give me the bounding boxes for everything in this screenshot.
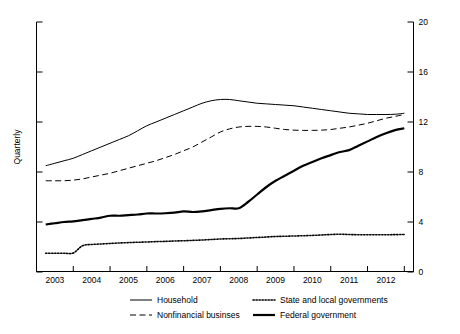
y-tick-label: 12 [419,117,429,127]
x-tick-label: 2004 [82,275,101,285]
chart-figure: 048121620 200320042005200620072008200920… [0,0,460,334]
x-tick-label: 2011 [340,275,359,285]
y-tick-label: 8 [419,167,424,177]
right-axis-tick-labels: 048121620 [419,17,429,277]
x-tick-label: 2009 [266,275,285,285]
x-tick-label: 2012 [376,275,395,285]
y-tick-label: 0 [419,267,424,277]
x-axis-tick-labels: 2003200420052006200720082009201020112012 [45,275,395,285]
x-tick-label: 2006 [156,275,175,285]
legend-label[interactable]: Nonfinancial businses [157,310,240,320]
chart-legend: HouseholdState and local governmentsNonf… [130,295,388,320]
right-axis-ticks [408,22,414,272]
left-axis-ticks [37,22,43,272]
x-tick-label: 2005 [119,275,138,285]
series-line-state-and-local-governments [46,234,405,253]
series-line-household [46,99,405,165]
series-line-federal-government [46,128,405,224]
y-tick-label: 20 [419,17,429,27]
right-axis: 048121620 [408,17,429,277]
y-tick-label: 16 [419,67,429,77]
legend-label[interactable]: State and local governments [280,295,388,305]
x-tick-label: 2007 [193,275,212,285]
legend-label[interactable]: Federal government [280,310,357,320]
y-tick-label: 4 [419,217,424,227]
y-axis-label: Quarterly [12,129,22,165]
x-tick-label: 2008 [229,275,248,285]
bottom-axis: 2003200420052006200720082009201020112012 [36,266,414,285]
x-tick-label: 2003 [45,275,64,285]
line-chart-canvas: 048121620 200320042005200620072008200920… [0,0,460,334]
data-series-group [46,99,405,253]
legend-label[interactable]: Household [157,295,198,305]
x-tick-label: 2010 [303,275,322,285]
left-axis [37,22,43,272]
